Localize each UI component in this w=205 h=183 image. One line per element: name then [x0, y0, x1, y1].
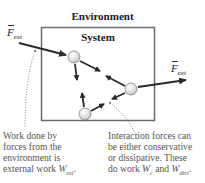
particle-2	[125, 83, 137, 95]
work-symbol-c: W	[142, 163, 150, 174]
force-symbol: F	[171, 62, 178, 74]
environment-label: Environment	[0, 10, 205, 22]
interaction-arrow-1-3	[75, 64, 77, 80]
caption-interaction-forces: Interaction forces can be either conserv…	[108, 130, 205, 179]
caption-line: environment is	[3, 152, 98, 163]
diagram-stage: Environment System Fext Fext Work done b…	[0, 0, 205, 183]
interaction-arrow-2-3	[112, 93, 125, 99]
particle-1	[68, 51, 80, 63]
caption-line: be either conservative	[108, 141, 205, 152]
force-symbol: F	[7, 26, 14, 38]
caption-line: forces from the	[3, 141, 98, 152]
force-subscript: ext	[178, 69, 186, 77]
external-force-right-arrow	[138, 80, 186, 87]
caption-end: .	[73, 163, 75, 174]
interaction-arrow-3-1	[82, 93, 84, 107]
interaction-arrow-2-1	[106, 76, 125, 86]
caption-line: external work Wext.	[3, 163, 98, 179]
force-subscript: ext	[14, 33, 22, 41]
external-force-right-label: Fext	[171, 62, 186, 77]
callout-left-dot	[34, 50, 36, 52]
interaction-arrow-1-2	[80, 61, 100, 71]
caption-line: Work done by	[3, 130, 98, 141]
work-subscript-diss: diss	[179, 170, 188, 176]
caption-external-work: Work done by forces from the environment…	[3, 130, 98, 179]
dotted-callout-right	[110, 103, 135, 133]
dotted-callout-left	[25, 51, 35, 128]
callout-right-dot	[109, 102, 111, 104]
caption-line: or dissipative. These	[108, 152, 205, 163]
caption-joiner: and	[153, 163, 172, 174]
caption-text: external work	[3, 163, 58, 174]
external-force-left-arrow	[19, 43, 66, 55]
particle-3	[79, 108, 91, 120]
caption-end: .	[189, 163, 191, 174]
caption-line: do work Wc and Wdiss.	[108, 163, 205, 179]
caption-text: do work	[108, 163, 142, 174]
external-force-left-label: Fext	[7, 26, 22, 41]
system-label: System	[41, 31, 155, 43]
interaction-arrow-3-2	[91, 104, 104, 111]
caption-line: Interaction forces can	[108, 130, 205, 141]
